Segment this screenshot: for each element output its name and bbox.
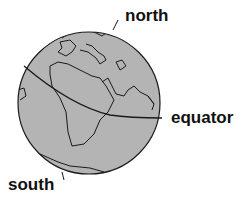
equator-label: equator	[171, 109, 233, 126]
north-pointer	[113, 20, 118, 30]
north-label: north	[125, 7, 168, 24]
globe-diagram	[0, 0, 252, 202]
south-label: south	[8, 176, 54, 193]
south-pointer	[62, 172, 64, 180]
